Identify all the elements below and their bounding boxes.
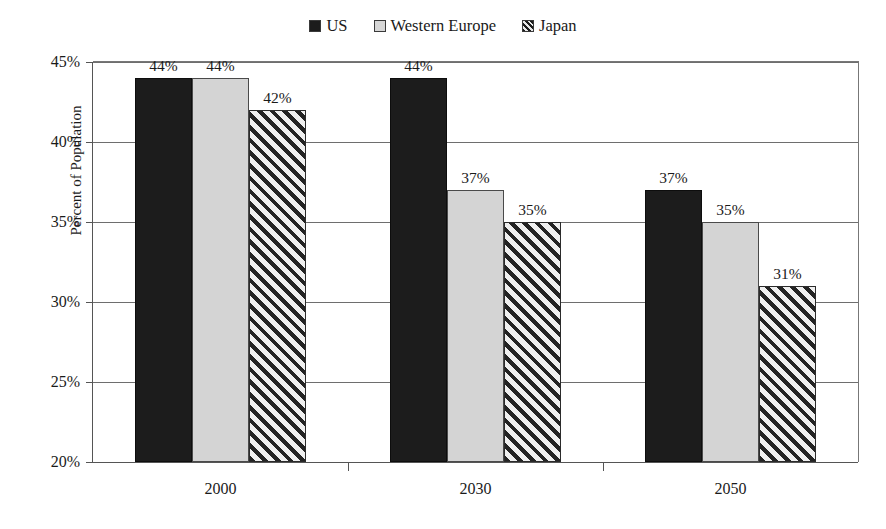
y-axis-tick bbox=[86, 382, 93, 383]
y-axis-tick-label: 20% bbox=[51, 453, 80, 471]
y-axis-tick-label: 30% bbox=[51, 293, 80, 311]
bar-us-2050: 37% bbox=[645, 190, 702, 462]
y-axis-tick-label: 25% bbox=[51, 373, 80, 391]
bar-value-label: 35% bbox=[518, 201, 546, 219]
y-axis-tick bbox=[86, 62, 93, 63]
bar-value-label: 44% bbox=[149, 57, 177, 75]
bar-value-label: 37% bbox=[461, 169, 489, 187]
bar-value-label: 44% bbox=[206, 57, 234, 75]
legend-item-us: US bbox=[309, 18, 347, 35]
bar-chart: US Western Europe Japan Percent of Popul… bbox=[0, 0, 886, 529]
legend-swatch-japan-icon bbox=[522, 20, 534, 32]
bar-value-label: 44% bbox=[404, 57, 432, 75]
chart-legend: US Western Europe Japan bbox=[0, 18, 886, 35]
bar-western-europe-2000: 44% bbox=[192, 78, 249, 462]
x-axis-tick bbox=[603, 462, 604, 471]
y-axis-tick bbox=[86, 222, 93, 223]
bar-us-2000: 44% bbox=[135, 78, 192, 462]
legend-label-japan: Japan bbox=[539, 18, 577, 35]
bar-value-label: 37% bbox=[659, 169, 687, 187]
y-axis-tick bbox=[86, 142, 93, 143]
bar-japan-2000: 42% bbox=[249, 110, 306, 462]
bar-value-label: 42% bbox=[263, 89, 291, 107]
bar-western-europe-2050: 35% bbox=[702, 222, 759, 462]
legend-item-western-europe: Western Europe bbox=[374, 18, 496, 35]
plot-area: 44%44%42%44%37%35%37%35%31% 200020302050 bbox=[92, 62, 858, 463]
bar-western-europe-2030: 37% bbox=[447, 190, 504, 462]
y-axis-tick bbox=[86, 302, 93, 303]
legend-swatch-us-icon bbox=[309, 20, 321, 32]
x-axis-label-2000: 2000 bbox=[205, 480, 237, 498]
x-axis-tick bbox=[348, 462, 349, 471]
bar-us-2030: 44% bbox=[390, 78, 447, 462]
legend-item-japan: Japan bbox=[522, 18, 577, 35]
y-axis-tick bbox=[86, 462, 93, 463]
legend-label-western-europe: Western Europe bbox=[391, 18, 496, 35]
legend-swatch-western-europe-icon bbox=[374, 20, 386, 32]
y-axis-tick-label: 45% bbox=[51, 53, 80, 71]
y-axis-tick-label: 35% bbox=[51, 213, 80, 231]
legend-label-us: US bbox=[326, 18, 347, 35]
x-axis-label-2030: 2030 bbox=[460, 480, 492, 498]
bar-japan-2050: 31% bbox=[759, 286, 816, 462]
plot-right-border bbox=[858, 61, 859, 462]
x-axis-label-2050: 2050 bbox=[715, 480, 747, 498]
bar-value-label: 35% bbox=[716, 201, 744, 219]
bar-japan-2030: 35% bbox=[504, 222, 561, 462]
bar-value-label: 31% bbox=[773, 265, 801, 283]
bars-layer: 44%44%42%44%37%35%37%35%31% bbox=[93, 62, 858, 462]
y-axis-tick-label: 40% bbox=[51, 133, 80, 151]
